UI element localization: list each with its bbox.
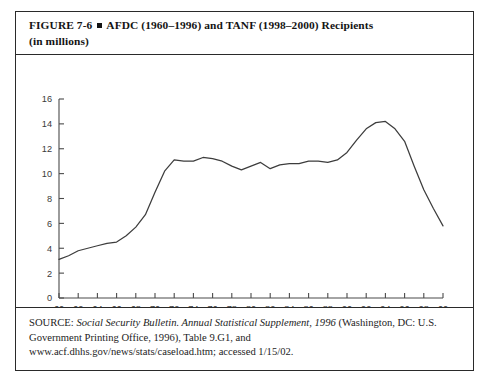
chart-axes: [59, 99, 443, 298]
source-publisher-partial: (Washington, DC: U.S.: [338, 317, 436, 328]
figure-caption: FIGURE 7-6AFDC (1960–1996) and TANF (199…: [16, 12, 473, 55]
chart-plot-area: 0246810121416 60626466687072747678808284…: [16, 55, 473, 307]
figure-title-line-1: AFDC (1960–1996) and TANF (1998–2000) Re…: [106, 19, 373, 31]
caption-line-1: FIGURE 7-6AFDC (1960–1996) and TANF (199…: [29, 18, 461, 34]
y-axis-tick-label: 14: [42, 119, 52, 129]
source-label: SOURCE:: [29, 317, 74, 328]
y-axis-ticks: 0246810121416: [42, 94, 64, 303]
source-publication: Social Security Bulletin. Annual Statist…: [76, 317, 335, 328]
x-axis-ticks: 6062646668707274767880828486889092949698…: [54, 293, 448, 307]
source-line-3: www.acf.dhhs.gov/news/stats/caseload.htm…: [29, 345, 459, 360]
y-axis-tick-label: 8: [47, 194, 52, 204]
y-axis-tick-label: 4: [47, 244, 52, 254]
figure-container: FIGURE 7-6AFDC (1960–1996) and TANF (199…: [15, 11, 474, 371]
source-note: SOURCE: Social Security Bulletin. Annual…: [16, 307, 473, 370]
line-chart-svg: 0246810121416 60626466687072747678808284…: [16, 55, 473, 307]
y-axis-tick-label: 2: [47, 269, 52, 279]
y-axis-tick-label: 6: [47, 219, 52, 229]
y-axis-tick-label: 0: [47, 293, 52, 303]
y-axis-tick-label: 12: [42, 144, 52, 154]
y-axis-tick-label: 16: [42, 94, 52, 104]
data-series-line: [59, 121, 443, 259]
source-line-1: SOURCE: Social Security Bulletin. Annual…: [29, 316, 459, 331]
y-axis-tick-label: 10: [42, 169, 52, 179]
caption-line-2: (in millions): [29, 34, 461, 50]
square-marker-icon: [97, 23, 102, 28]
figure-number: FIGURE 7-6: [29, 19, 92, 31]
source-line-2: Government Printing Office, 1996), Table…: [29, 331, 459, 346]
